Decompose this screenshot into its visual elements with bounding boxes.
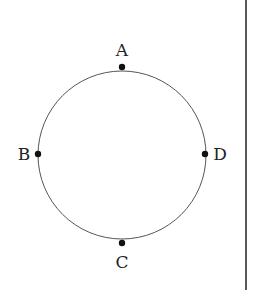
label-a: A: [115, 40, 129, 60]
circle-diagram: A B C D: [0, 0, 254, 296]
label-b: B: [18, 144, 31, 164]
label-c: C: [115, 252, 128, 272]
point-c: [119, 240, 125, 246]
label-d: D: [213, 144, 227, 164]
point-a: [119, 64, 125, 70]
point-b: [35, 151, 41, 157]
point-d: [202, 151, 208, 157]
circle: [38, 71, 206, 239]
